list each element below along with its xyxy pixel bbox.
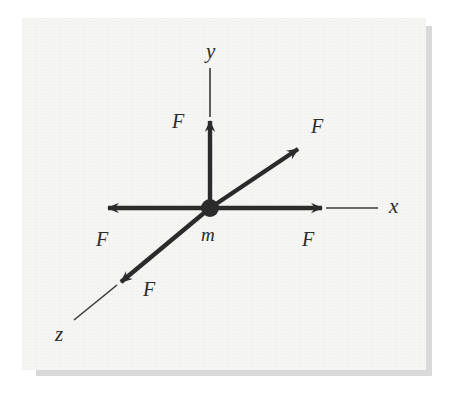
force-label-diagonal-upper-right: F [310,115,324,137]
axis-label-z: z [54,322,63,346]
axis-label-x: x [388,194,399,218]
force-positive-z-arrow [121,208,210,282]
force-label-negative-x: F [95,228,109,250]
force-label-positive-z: F [142,278,156,300]
axis-lines [74,68,378,320]
axis-label-y: y [204,39,216,63]
force-label-positive-y: F [171,110,185,132]
mass-point-dot [201,199,219,217]
force-diagonal-upper-right-arrow [210,149,298,208]
mass-label: m [201,224,215,245]
force-diagram: y x z m F F F F F [0,0,451,397]
force-label-positive-x: F [301,228,315,250]
figure-root: y x z m F F F F F [0,0,451,397]
z-axis-extension-line [74,285,117,320]
